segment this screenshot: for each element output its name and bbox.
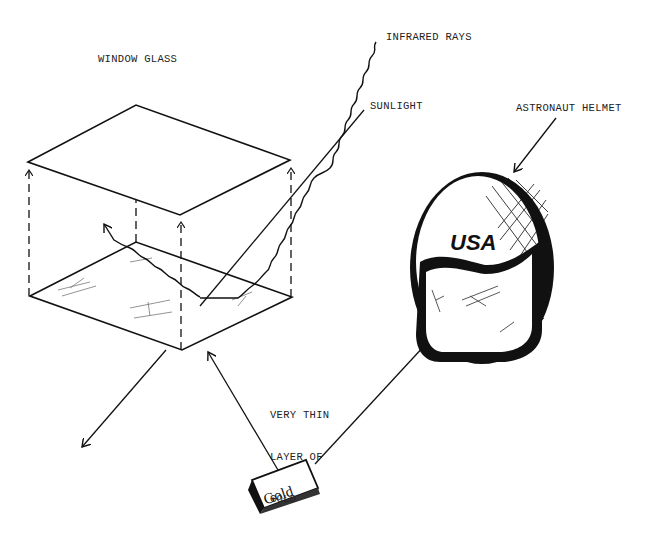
gold-layer-line-1: VERY THIN — [270, 408, 329, 422]
infrared-ray — [200, 42, 376, 298]
astronaut-helmet-label: ASTRONAUT HELMET — [516, 101, 622, 115]
gold-to-glass-arrow — [208, 352, 278, 470]
helmet-usa-text: USA — [450, 230, 496, 255]
gold-layer-line-2: LAYER OF — [270, 450, 329, 464]
gold-layer-line-3: GOLD — [270, 492, 329, 506]
infrared-rays-label: INFRARED RAYS — [386, 30, 472, 44]
infrared-reflected-ray — [104, 224, 200, 297]
sunlight-ray — [200, 110, 364, 306]
helmet-label-arrow — [514, 118, 556, 172]
transmitted-arrow — [82, 350, 166, 447]
sunlight-label: SUNLIGHT — [370, 99, 423, 113]
astronaut-helmet: USA — [410, 172, 554, 364]
diagram-canvas: USA Gold — [0, 0, 659, 544]
window-glass-label: WINDOW GLASS — [98, 52, 177, 66]
window-glass-box — [28, 105, 292, 350]
gold-layer-label: VERY THIN LAYER OF GOLD — [270, 380, 329, 520]
